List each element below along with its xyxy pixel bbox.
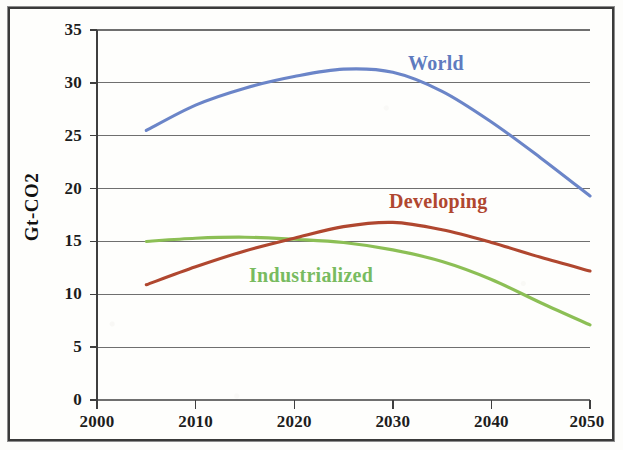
y-tick-label-25: 25 (42, 126, 82, 146)
chart-plot-area (0, 0, 623, 450)
series-line-world (146, 69, 590, 196)
y-tick-label-5: 5 (42, 337, 82, 357)
gridlines (97, 30, 590, 400)
y-tick-label-0: 0 (42, 390, 82, 410)
x-tick-label-2050: 2050 (552, 412, 622, 432)
series-label-developing: Developing (389, 190, 488, 213)
y-tick-label-10: 10 (42, 284, 82, 304)
series-label-world: World (408, 52, 464, 75)
x-tick-label-2000: 2000 (62, 412, 132, 432)
x-tick-label-2040: 2040 (456, 412, 526, 432)
y-axis (90, 30, 97, 400)
x-tick-label-2020: 2020 (259, 412, 329, 432)
y-axis-title: Gt-CO2 (21, 152, 43, 262)
x-axis (97, 400, 590, 409)
x-tick-label-2010: 2010 (161, 412, 231, 432)
emissions-line-chart: 35 30 25 20 15 10 5 0 2000 2010 2020 203… (0, 0, 623, 450)
x-tick-label-2030: 2030 (358, 412, 428, 432)
y-tick-label-35: 35 (42, 20, 82, 40)
series-label-industrialized: Industrialized (249, 264, 373, 287)
y-tick-label-20: 20 (42, 179, 82, 199)
y-tick-label-30: 30 (42, 73, 82, 93)
chart-screenshot: 35 30 25 20 15 10 5 0 2000 2010 2020 203… (0, 0, 623, 450)
y-tick-label-15: 15 (42, 231, 82, 251)
